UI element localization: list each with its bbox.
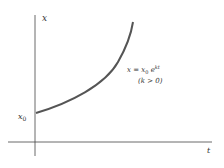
equation-label: x = x0 ekt [127,64,161,75]
t-axis-label: t [207,146,211,155]
exponential-curve [36,22,133,113]
condition-label: (k > 0) [138,77,163,85]
x0-label: x0 [18,112,27,122]
x-axis-label: x [42,13,47,23]
exponential-growth-diagram: x t x0 x = x0 ekt (k > 0) [0,0,224,168]
